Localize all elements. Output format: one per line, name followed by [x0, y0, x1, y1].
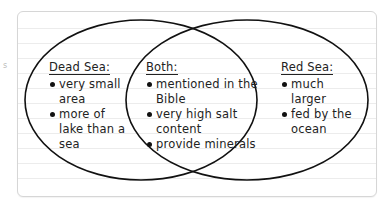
list-item: much larger	[281, 77, 353, 107]
dead-sea-heading: Dead Sea:	[49, 61, 110, 75]
list-item: very small area	[49, 77, 129, 107]
dead-sea-region: Dead Sea: very small area more of lake t…	[49, 60, 129, 152]
list-item: very high salt content	[146, 107, 258, 137]
list-item: provide minerals	[146, 137, 258, 152]
list-item: mentioned in the Bible	[146, 77, 258, 107]
list-item: fed by the ocean	[281, 107, 353, 137]
both-region: Both: mentioned in the Bible very high s…	[146, 60, 258, 152]
list-item: more of lake than a sea	[49, 107, 129, 152]
red-sea-heading: Red Sea:	[281, 61, 333, 75]
red-sea-region: Red Sea: much larger fed by the ocean	[281, 60, 353, 137]
both-heading: Both:	[146, 61, 178, 75]
